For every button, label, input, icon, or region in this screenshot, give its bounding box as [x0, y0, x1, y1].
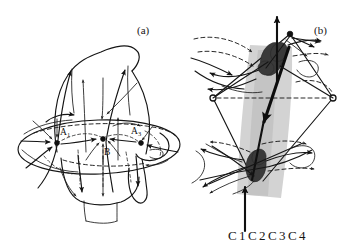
- node-A3-dot: [139, 141, 144, 146]
- node-label-A3: A: [131, 126, 138, 136]
- panel-b-caption: C1C2C3C4: [228, 228, 308, 243]
- node-label-A1-subscript: 1: [67, 131, 70, 138]
- node-B-dot: [101, 137, 106, 142]
- node-label-A3-subscript: 3: [138, 130, 141, 137]
- panel-b-label: (b): [314, 24, 327, 37]
- node-label-A1: A: [60, 127, 67, 137]
- figure-background: [0, 0, 347, 250]
- figure-canvas: A 1 B A 3 (a): [0, 0, 347, 250]
- node-A1-dot: [55, 141, 60, 146]
- node-label-B: B: [104, 147, 110, 157]
- figure-root: A 1 B A 3 (a): [0, 0, 347, 250]
- panel-a-label: (a): [137, 24, 150, 37]
